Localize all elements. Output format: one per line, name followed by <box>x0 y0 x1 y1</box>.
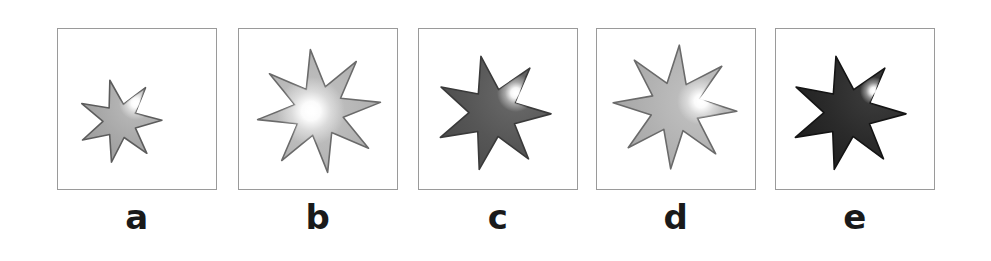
image-panel-c <box>418 28 578 190</box>
panel-label-b: b <box>238 195 398 239</box>
image-panel-d <box>596 28 756 190</box>
image-panel-b <box>238 28 398 190</box>
panel-label-d: d <box>596 195 756 239</box>
panel-row <box>0 0 991 200</box>
shaded-star-icon <box>597 29 757 191</box>
panel-label-c: c <box>418 195 578 239</box>
panel-label-row: a b c d e <box>0 195 991 255</box>
shaded-star-icon <box>239 29 399 191</box>
image-panel-e <box>775 28 935 190</box>
figure-root: a b c d e <box>0 0 991 261</box>
image-panel-a <box>57 28 217 190</box>
panel-label-a: a <box>57 195 217 239</box>
panel-label-e: e <box>775 195 935 239</box>
shaded-star-icon <box>419 29 579 191</box>
shaded-star-icon <box>776 29 936 191</box>
shaded-star-icon <box>58 29 218 191</box>
